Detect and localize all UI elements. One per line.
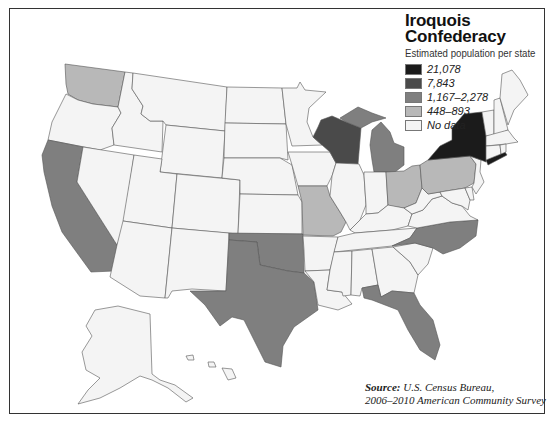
legend-item: 1,167–2,278 (405, 90, 545, 104)
legend-item: 448–893 (405, 104, 545, 118)
legend-title: Iroquois Confederacy (405, 13, 545, 45)
legend-item: No data (405, 118, 545, 132)
source-label: Source: (365, 381, 400, 393)
legend-items: 21,078 7,843 1,167–2,278 448–893 No data (405, 62, 545, 132)
source-line2: 2006–2010 American Community Survey (365, 394, 546, 407)
state-wyoming[interactable] (160, 125, 225, 178)
legend-item: 21,078 (405, 62, 545, 76)
legend-subtitle: Estimated population per state (405, 47, 534, 59)
legend-swatch (405, 78, 422, 89)
legend: Iroquois Confederacy Estimated populatio… (405, 13, 545, 132)
legend-swatch (405, 92, 422, 103)
state-florida[interactable] (362, 285, 440, 360)
legend-swatch (405, 106, 422, 117)
legend-label: 1,167–2,278 (427, 91, 488, 103)
state-rhode-island[interactable] (500, 144, 506, 154)
state-colorado[interactable] (172, 174, 240, 234)
state-new-mexico[interactable] (165, 228, 229, 298)
legend-label: 7,843 (427, 77, 455, 89)
legend-label: 448–893 (427, 105, 470, 117)
legend-title-line2: Confederacy (405, 29, 545, 45)
source-line1: U.S. Census Bureau, (403, 381, 494, 393)
state-north-dakota[interactable] (225, 87, 286, 124)
state-south-dakota[interactable] (224, 123, 288, 160)
legend-item: 7,843 (405, 76, 545, 90)
state-hawaii[interactable] (186, 355, 236, 380)
legend-label: 21,078 (427, 63, 461, 75)
legend-swatch (405, 120, 422, 131)
state-kansas[interactable] (238, 194, 302, 234)
legend-label: No data (427, 119, 466, 131)
state-alaska[interactable] (78, 306, 193, 404)
legend-swatch (405, 64, 422, 75)
source-note: Source: U.S. Census Bureau, 2006–2010 Am… (365, 381, 546, 407)
